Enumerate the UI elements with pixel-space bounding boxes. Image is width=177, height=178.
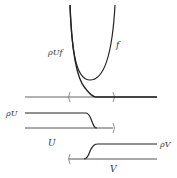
label-u: U: [48, 138, 56, 148]
u-right-paren-mark: [113, 123, 115, 133]
label-v: V: [110, 164, 118, 174]
label-f: f: [115, 40, 121, 50]
function-rho-v-curve: [84, 144, 157, 159]
label-rho-v: ρV: [159, 140, 172, 149]
label-rho-u: ρU: [5, 109, 18, 118]
partition-of-unity-diagram: ρUf f ρU U ρV V: [0, 0, 177, 178]
label-rho-u-f: ρUf: [47, 48, 64, 57]
function-rho-u-curve: [25, 113, 97, 128]
